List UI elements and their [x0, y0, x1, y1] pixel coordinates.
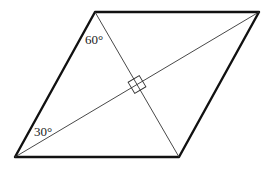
- angle-label-30: 30°: [34, 124, 52, 139]
- angle-label-60: 60°: [85, 32, 103, 47]
- short-diagonal: [95, 12, 179, 157]
- rhombus-diagram: 60° 30°: [0, 0, 271, 172]
